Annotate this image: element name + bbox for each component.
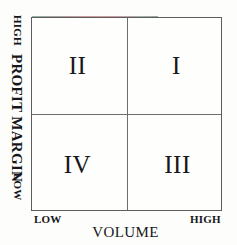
quadrant-two-numeral: II: [69, 53, 87, 78]
scan-color-fringe: [32, 16, 158, 17]
quadrant-four-numeral: IV: [64, 152, 91, 177]
matrix-box: II I IV III: [31, 17, 222, 211]
quadrant-two: II: [32, 18, 127, 114]
quadrant-matrix-diagram: HIGH PROFIT MARGIN LOW II I IV III LOW H…: [0, 0, 237, 245]
y-axis-title: PROFIT MARGIN: [8, 54, 25, 182]
quadrant-one: I: [128, 18, 223, 114]
quadrant-three: III: [128, 115, 223, 211]
y-axis-high-label: HIGH: [12, 15, 24, 46]
quadrant-one-numeral: I: [172, 53, 181, 78]
quadrant-three-numeral: III: [164, 152, 190, 177]
x-axis-title: VOLUME: [0, 224, 237, 241]
y-axis-low-label: LOW: [12, 173, 24, 201]
quadrant-four: IV: [32, 115, 127, 211]
